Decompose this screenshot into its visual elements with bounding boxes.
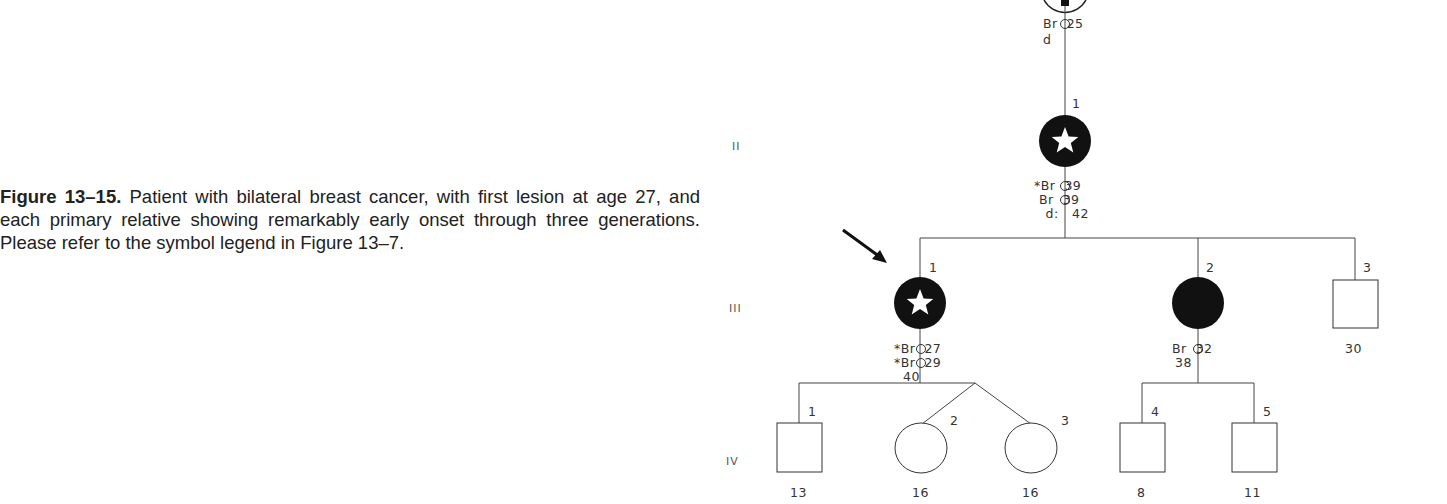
svg-text:d: d xyxy=(1043,32,1051,47)
svg-text:Br 25: Br 25 xyxy=(1043,16,1084,31)
gen-i-labels: Br 25 d xyxy=(1043,16,1084,47)
proband-arrow-icon xyxy=(843,230,887,263)
gen-iv-2-age: 16 xyxy=(912,485,929,500)
gen-iv-4-male xyxy=(1120,423,1165,472)
gen-iii-number-1: 1 xyxy=(929,260,937,275)
svg-text:*Br 29: *Br 29 xyxy=(894,355,941,370)
gen-iii-2-labels: Br 32 38 xyxy=(1172,341,1213,370)
pedigree-diagram: II III IV Br 25 d 1 *Br 39 Br 39 d: 42 1 xyxy=(0,0,1447,504)
gen-iii-3-unaffected-male xyxy=(1333,280,1378,328)
svg-text:*Br 27: *Br 27 xyxy=(894,341,941,356)
gen-iv-3-female xyxy=(1005,423,1057,473)
gen-iii-2-affected-female xyxy=(1172,277,1224,329)
svg-text:*Br 39: *Br 39 xyxy=(1034,178,1081,193)
gen-iii-3-age: 30 xyxy=(1345,341,1362,356)
generation-label-iii: III xyxy=(729,302,742,315)
gen-iii-1-affected-female-proband xyxy=(894,277,946,329)
gen-iv-number-1: 1 xyxy=(808,404,816,419)
gen-iv-2-female xyxy=(895,423,947,473)
gen-iv-4-age: 8 xyxy=(1137,485,1145,500)
generation-label-ii: II xyxy=(732,140,741,153)
gen-iv-number-5: 5 xyxy=(1263,404,1271,419)
svg-text:Br 39: Br 39 xyxy=(1039,192,1080,207)
svg-text:38: 38 xyxy=(1175,355,1192,370)
gen-iv-number-3: 3 xyxy=(1061,413,1069,428)
gen-iv-5-male xyxy=(1232,423,1277,472)
gen-iv-3-age: 16 xyxy=(1022,485,1039,500)
gen-iv-1-male xyxy=(777,423,822,472)
gen-iii-number-3: 3 xyxy=(1363,260,1371,275)
gen-ii-1-labels: *Br 39 Br 39 d: 42 xyxy=(1034,178,1089,221)
svg-text:40: 40 xyxy=(903,369,920,384)
svg-text:d: 42: d: 42 xyxy=(1041,206,1089,221)
gen-iii-1-labels: *Br 27 *Br 29 40 xyxy=(894,341,941,384)
gen-iii-number-2: 2 xyxy=(1206,260,1214,275)
svg-text:Br 32: Br 32 xyxy=(1172,341,1213,356)
gen-ii-number-1: 1 xyxy=(1072,96,1080,111)
gen-iv-number-2: 2 xyxy=(950,413,958,428)
gen-iv-number-4: 4 xyxy=(1151,404,1159,419)
gen-iv-1-age: 13 xyxy=(790,485,807,500)
generation-label-iv: IV xyxy=(726,455,739,468)
gen-iv-5-age: 11 xyxy=(1244,485,1261,500)
gen-ii-1-affected-female xyxy=(1039,115,1091,167)
